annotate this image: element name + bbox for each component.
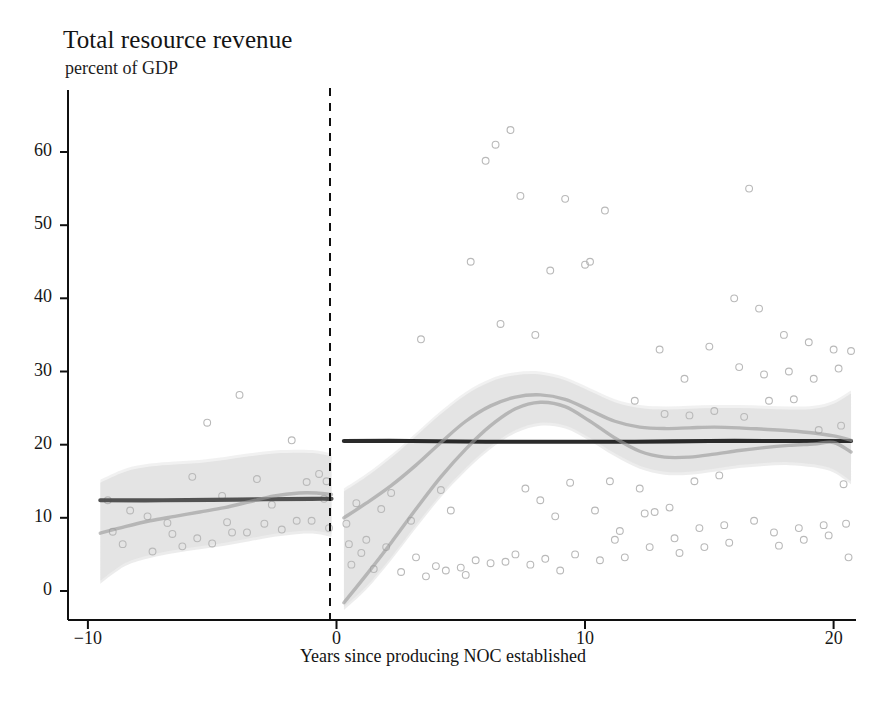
scatter-point: [761, 371, 768, 378]
scatter-point: [597, 557, 604, 564]
scatter-point: [512, 551, 519, 558]
scatter-point: [532, 332, 539, 339]
scatter-point: [756, 305, 763, 312]
scatter-point: [810, 375, 817, 382]
scatter-point: [830, 346, 837, 353]
scatter-point: [726, 539, 733, 546]
scatter-point: [671, 535, 678, 542]
scatter-point: [457, 564, 464, 571]
scatter-point: [848, 348, 855, 355]
post-noc-panel-confidence-band-outer: [344, 371, 851, 607]
scatter-point: [716, 472, 723, 479]
scatter-point: [607, 478, 614, 485]
scatter-point: [781, 332, 788, 339]
scatter-point: [666, 504, 673, 511]
scatter-point: [721, 522, 728, 529]
scatter-point: [845, 554, 852, 561]
scatter-point: [447, 507, 454, 514]
scatter-point: [562, 195, 569, 202]
scatter-plot-canvas: [0, 0, 886, 703]
scatter-point: [487, 560, 494, 567]
scatter-point: [636, 485, 643, 492]
scatter-point: [492, 141, 499, 148]
x-axis-title: Years since producing NOC established: [0, 646, 886, 667]
scatter-point: [825, 532, 832, 539]
scatter-point: [776, 542, 783, 549]
scatter-point: [517, 193, 524, 200]
y-tick-label-10: 10: [8, 506, 52, 527]
scatter-point: [736, 364, 743, 371]
scatter-point: [646, 544, 653, 551]
scatter-point: [696, 525, 703, 532]
y-tick-label-40: 40: [8, 286, 52, 307]
scatter-point: [771, 529, 778, 536]
scatter-point: [433, 563, 440, 570]
scatter-point: [602, 207, 609, 214]
scatter-point: [843, 520, 850, 527]
scatter-point: [766, 397, 773, 404]
scatter-point: [467, 258, 474, 265]
scatter-point: [472, 557, 479, 564]
scatter-point: [497, 321, 504, 328]
scatter-point: [681, 375, 688, 382]
scatter-point: [442, 567, 449, 574]
scatter-point: [800, 536, 807, 543]
scatter-point: [631, 397, 638, 404]
scatter-point: [641, 510, 648, 517]
scatter-point: [288, 437, 295, 444]
scatter-point: [413, 554, 420, 561]
scatter-point: [592, 507, 599, 514]
y-tick-label-50: 50: [8, 213, 52, 234]
confidence-bands-group: [100, 371, 851, 610]
scatter-point: [557, 567, 564, 574]
scatter-point: [572, 551, 579, 558]
scatter-point: [651, 509, 658, 516]
y-tick-label-20: 20: [8, 433, 52, 454]
scatter-point: [567, 479, 574, 486]
scatter-point: [482, 157, 489, 164]
scatter-point: [236, 392, 243, 399]
y-tick-label-30: 30: [8, 360, 52, 381]
scatter-point: [701, 544, 708, 551]
scatter-point: [537, 497, 544, 504]
scatter-point: [795, 525, 802, 532]
post-noc-panel-mean-level-line: [344, 441, 851, 442]
scatter-point: [820, 522, 827, 529]
scatter-point: [731, 295, 738, 302]
scatter-point: [547, 267, 554, 274]
scatter-point: [676, 550, 683, 557]
scatter-point: [527, 561, 534, 568]
scatter-point: [398, 569, 405, 576]
tick-marks-group: [60, 152, 834, 629]
scatter-point: [502, 558, 509, 565]
scatter-point: [552, 513, 559, 520]
scatter-point: [706, 343, 713, 350]
scatter-point: [507, 127, 514, 134]
scatter-point: [691, 478, 698, 485]
scatter-point: [616, 528, 623, 535]
scatter-point: [656, 346, 663, 353]
scatter-point: [418, 336, 425, 343]
scatter-point: [746, 185, 753, 192]
scatter-point: [204, 419, 211, 426]
scatter-point: [522, 485, 529, 492]
y-tick-label-0: 0: [8, 579, 52, 600]
scatter-point: [751, 517, 758, 524]
scatter-point: [542, 555, 549, 562]
scatter-point: [462, 572, 469, 579]
scatter-point: [611, 536, 618, 543]
scatter-point: [621, 554, 628, 561]
chart-figure: Total resource revenue percent of GDP 01…: [0, 0, 886, 703]
scatter-point: [805, 339, 812, 346]
scatter-point: [785, 368, 792, 375]
scatter-point: [835, 365, 842, 372]
scatter-point: [423, 573, 430, 580]
scatter-point: [790, 396, 797, 403]
scatter-point: [840, 481, 847, 488]
y-tick-label-60: 60: [8, 140, 52, 161]
pre-noc-panel-mean-level-line: [100, 499, 331, 501]
